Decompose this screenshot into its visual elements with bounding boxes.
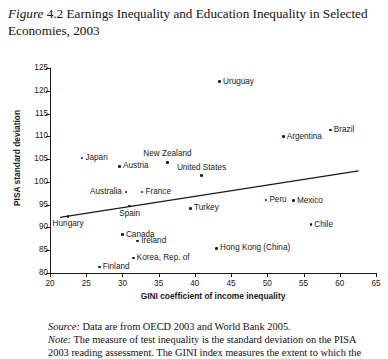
source-note: Source: Data are from OECD 2003 and Worl… bbox=[48, 320, 388, 333]
note-line-2: Note: The measure of test inequality is … bbox=[48, 333, 388, 346]
source-text: Data are from OECD 2003 and World Bank 2… bbox=[80, 321, 291, 332]
figure-title: Figure 4.2 Earnings Inequality and Educa… bbox=[8, 6, 380, 39]
note-label: Note: bbox=[48, 334, 71, 345]
figure-label: Figure bbox=[8, 6, 43, 21]
x-axis-title: GINI coefficient of income inequality bbox=[50, 291, 376, 301]
trend-line bbox=[0, 58, 388, 288]
note-text: The measure of test inequality is the st… bbox=[71, 334, 357, 345]
figure-number: 4.2 bbox=[47, 6, 63, 21]
source-label: Source: bbox=[48, 321, 80, 332]
figure-notes: Source: Data are from OECD 2003 and Worl… bbox=[48, 320, 388, 359]
scatter-plot: PISA standard deviation GINI coefficient… bbox=[0, 58, 388, 288]
note-line-3: 2003 reading assessment. The GINI index … bbox=[48, 346, 388, 359]
